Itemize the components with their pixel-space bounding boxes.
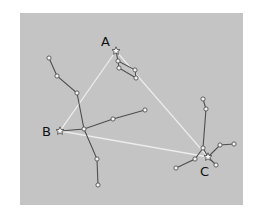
- vertex-label-b: B: [42, 124, 51, 139]
- star-dot: [174, 166, 178, 170]
- star-dot: [82, 127, 86, 131]
- star-dot: [55, 74, 59, 78]
- star-dot: [143, 108, 147, 112]
- star-dot: [133, 68, 137, 72]
- vertex-label-c: C: [200, 164, 209, 179]
- vertex-label-a: A: [101, 34, 110, 49]
- star-dot: [116, 59, 120, 63]
- star-dot: [232, 142, 236, 146]
- star-dot: [204, 107, 208, 111]
- star-dot: [218, 143, 222, 147]
- star-dot: [201, 97, 205, 101]
- star-dot: [47, 56, 51, 60]
- star-dot: [111, 117, 115, 121]
- star-dot: [96, 183, 100, 187]
- star-dot: [214, 163, 218, 167]
- sky-panel: [20, 13, 243, 205]
- star-dot: [117, 66, 121, 70]
- star-diagram: ABC: [0, 0, 259, 217]
- star-dot: [95, 157, 99, 161]
- star-dot: [201, 146, 205, 150]
- star-dot: [75, 91, 79, 95]
- star-dot: [134, 76, 138, 80]
- star-dot: [193, 157, 197, 161]
